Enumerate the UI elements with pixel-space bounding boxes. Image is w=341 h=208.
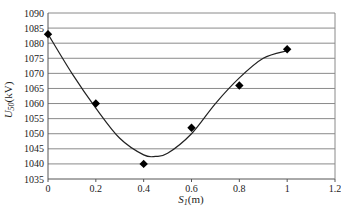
diamond-marker xyxy=(139,160,147,168)
y-tick-label: 1035 xyxy=(24,174,44,185)
x-axis-ticks: 00.20.40.60.811.2 xyxy=(46,179,341,194)
x-tick-label: 1.2 xyxy=(329,183,341,194)
x-tick-label: 0.8 xyxy=(233,183,246,194)
gridlines xyxy=(48,13,335,164)
y-tick-label: 1050 xyxy=(24,128,44,139)
y-axis-label: U50(kV) xyxy=(2,81,16,118)
chart: 1035104010451050105510601065107010751080… xyxy=(0,0,341,208)
x-tick-label: 0 xyxy=(46,183,51,194)
diamond-marker xyxy=(44,30,52,38)
x-tick-label: 0.2 xyxy=(90,183,103,194)
y-tick-label: 1065 xyxy=(24,83,44,94)
y-tick-label: 1060 xyxy=(24,98,44,109)
diamond-marker xyxy=(92,99,100,107)
y-tick-label: 1080 xyxy=(24,38,44,49)
x-tick-label: 1 xyxy=(285,183,290,194)
y-tick-label: 1085 xyxy=(24,23,44,34)
fitted-curve xyxy=(48,34,287,157)
y-tick-label: 1070 xyxy=(24,68,44,79)
y-tick-label: 1040 xyxy=(24,158,44,169)
diamond-marker xyxy=(283,45,291,53)
y-axis-ticks: 1035104010451050105510601065107010751080… xyxy=(24,8,44,185)
axes xyxy=(48,13,335,179)
y-tick-label: 1075 xyxy=(24,53,44,64)
y-tick-label: 1045 xyxy=(24,143,44,154)
data-markers xyxy=(44,30,292,168)
y-tick-label: 1090 xyxy=(24,8,44,19)
y-tick-label: 1055 xyxy=(24,113,44,124)
x-axis-label: S1(m) xyxy=(178,193,204,207)
x-tick-label: 0.4 xyxy=(137,183,150,194)
